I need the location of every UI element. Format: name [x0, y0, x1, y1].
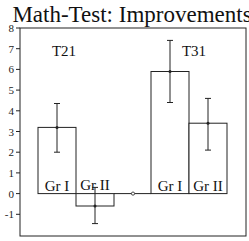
y-tick-label: 8	[9, 22, 15, 34]
chart: Math-Test: Improvements 8 7 6 5 4 3 2 1 …	[0, 0, 249, 241]
group-label-t21: T21	[52, 43, 76, 59]
y-tick-label: 4	[9, 105, 15, 117]
y-tick-label: 6	[9, 63, 15, 75]
group-label-t31: T31	[182, 43, 206, 59]
y-tick-label: 0	[9, 188, 15, 200]
y-tick-label: 2	[9, 146, 15, 158]
y-tick-label: -1	[5, 208, 14, 220]
chart-title: Math-Test: Improvements	[12, 2, 249, 27]
bar-label: Gr II	[193, 178, 223, 194]
zero-marker	[131, 192, 134, 195]
y-tick-label: 5	[9, 84, 15, 96]
y-tick-label: 7	[9, 43, 15, 55]
bar-label: Gr I	[158, 178, 183, 194]
bar-label: Gr I	[45, 178, 70, 194]
y-tick-labels: 8 7 6 5 4 3 2 1 0 -1	[5, 22, 15, 220]
y-axis	[16, 28, 20, 214]
y-tick-label: 1	[9, 167, 15, 179]
y-tick-label: 3	[9, 126, 15, 138]
